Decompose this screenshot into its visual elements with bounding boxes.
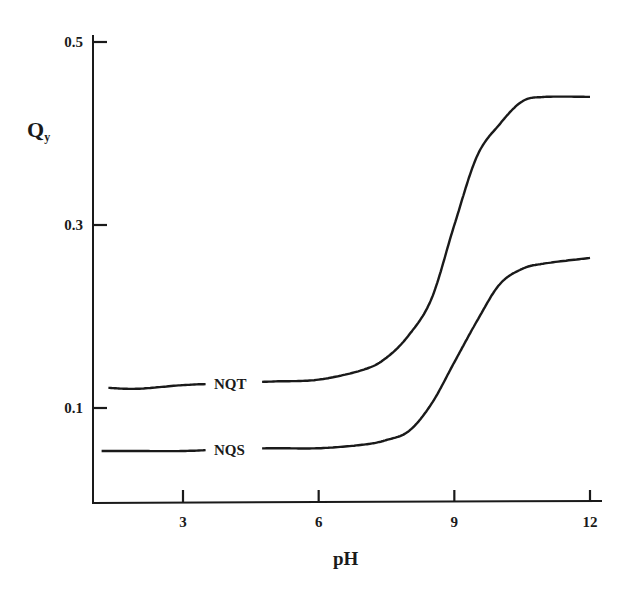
axes <box>93 35 602 503</box>
x-tick-label: 12 <box>583 514 598 530</box>
data-curves <box>102 97 590 452</box>
chart-plot: 369120.10.30.5 <box>0 0 643 592</box>
y-tick-label: 0.3 <box>64 217 83 233</box>
tick-labels: 369120.10.30.5 <box>64 34 597 530</box>
y-tick-label: 0.5 <box>64 34 83 50</box>
y-axis-label-subscript: y <box>44 130 50 144</box>
x-tick-label: 9 <box>451 514 459 530</box>
y-axis-label: Qy <box>27 117 50 145</box>
series-curve-nqs <box>102 258 590 451</box>
series-curve-nqt <box>108 97 590 389</box>
x-tick-label: 6 <box>315 514 323 530</box>
y-tick-label: 0.1 <box>64 400 83 416</box>
y-axis-label-main: Q <box>27 117 44 142</box>
series-label-nqt: NQT <box>214 376 247 393</box>
x-axis-label: pH <box>333 548 358 570</box>
x-tick-label: 3 <box>179 514 187 530</box>
axis-lines <box>93 35 602 503</box>
series-label-nqs: NQS <box>214 442 245 459</box>
